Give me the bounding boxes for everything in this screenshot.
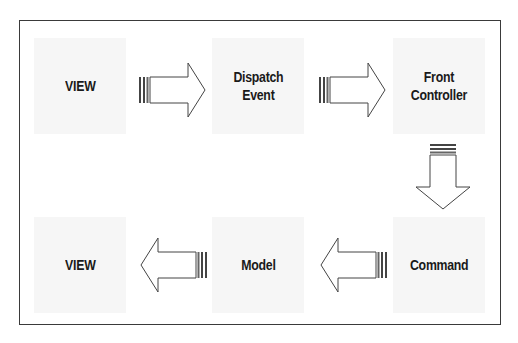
node-label: Dispatch Event (233, 68, 283, 104)
node-label: VIEW (65, 77, 95, 95)
arrow-right-icon (138, 62, 208, 118)
node-model: Model (212, 217, 304, 313)
node-label: Command (410, 256, 468, 274)
node-front-controller: Front Controller (393, 38, 485, 134)
node-label: Front Controller (411, 68, 467, 104)
arrow-left-icon (318, 237, 388, 293)
node-label: VIEW (65, 256, 95, 274)
arrow-left-icon (138, 237, 208, 293)
node-view-bottom: VIEW (34, 217, 126, 313)
arrow-right-icon (318, 62, 388, 118)
node-dispatch-event: Dispatch Event (212, 38, 304, 134)
node-command: Command (393, 217, 485, 313)
node-view-top: VIEW (34, 38, 126, 134)
arrow-down-icon (415, 143, 471, 211)
node-label: Model (241, 256, 275, 274)
